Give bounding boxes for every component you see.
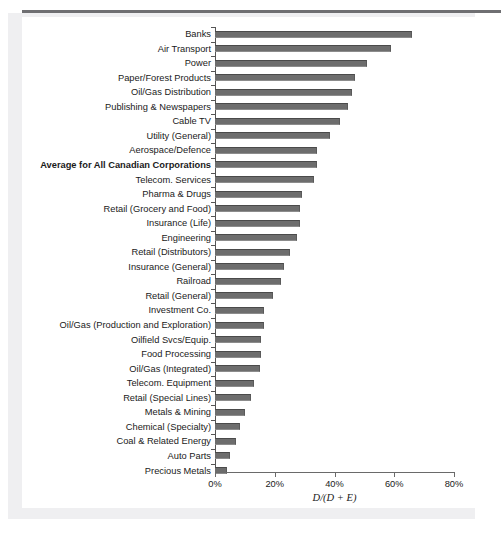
- x-axis-tick: [394, 472, 395, 477]
- y-axis-tick: [211, 245, 215, 246]
- y-axis-tick: [211, 303, 215, 304]
- y-axis-tick: [211, 27, 215, 28]
- bar: [215, 394, 251, 401]
- bar-category-label: Banks: [0, 27, 211, 41]
- x-axis-tick-label: 20%: [255, 479, 295, 489]
- bar-chart-plot: BanksAir TransportPowerPaper/Forest Prod…: [0, 0, 501, 537]
- bar-row: Power: [0, 56, 501, 70]
- y-axis-tick: [211, 85, 215, 86]
- bar: [215, 234, 297, 241]
- bar: [215, 74, 355, 81]
- y-axis-tick: [211, 420, 215, 421]
- bar-category-label: Oil/Gas Distribution: [0, 85, 211, 99]
- bar-row: Cable TV: [0, 114, 501, 128]
- bar: [215, 132, 330, 139]
- bar-row: Precious Metals: [0, 464, 501, 478]
- y-axis-tick: [211, 173, 215, 174]
- bar-row: Oilfield Svcs/Equip.: [0, 333, 501, 347]
- bar: [215, 351, 261, 358]
- bar: [215, 307, 264, 314]
- y-axis-tick: [211, 202, 215, 203]
- bar: [215, 205, 300, 212]
- bar-row: Food Processing: [0, 347, 501, 361]
- bar-category-label: Power: [0, 56, 211, 70]
- bar: [215, 220, 300, 227]
- x-axis-tick: [335, 472, 336, 477]
- bar-row: Paper/Forest Products: [0, 71, 501, 85]
- y-axis-tick: [211, 187, 215, 188]
- bar-row: Chemical (Specialty): [0, 420, 501, 434]
- bar-row: Average for All Canadian Corporations: [0, 158, 501, 172]
- bar-category-label: Aerospace/Defence: [0, 143, 211, 157]
- x-axis-tick-label: 0%: [195, 479, 235, 489]
- bar-row: Retail (Grocery and Food): [0, 202, 501, 216]
- bar-category-label: Oilfield Svcs/Equip.: [0, 333, 211, 347]
- bar-category-label: Oil/Gas (Production and Exploration): [0, 318, 211, 332]
- y-axis-tick: [211, 333, 215, 334]
- bar-row: Auto Parts: [0, 449, 501, 463]
- y-axis-tick: [211, 347, 215, 348]
- bar-category-label: Auto Parts: [0, 449, 211, 463]
- bar: [215, 45, 391, 52]
- y-axis-tick: [211, 362, 215, 363]
- bar-row: Railroad: [0, 274, 501, 288]
- y-axis-tick: [211, 100, 215, 101]
- bar-row: Air Transport: [0, 42, 501, 56]
- bar-row: Retail (Special Lines): [0, 391, 501, 405]
- bar-category-label: Utility (General): [0, 129, 211, 143]
- y-axis-tick: [211, 449, 215, 450]
- bar: [215, 161, 317, 168]
- bar: [215, 452, 230, 459]
- bar-category-label: Paper/Forest Products: [0, 71, 211, 85]
- bar-category-label: Pharma & Drugs: [0, 187, 211, 201]
- bar: [215, 278, 281, 285]
- bar-category-label: Metals & Mining: [0, 405, 211, 419]
- bar: [215, 423, 240, 430]
- bar-category-label: Chemical (Specialty): [0, 420, 211, 434]
- bar: [215, 31, 412, 38]
- y-axis-tick: [211, 129, 215, 130]
- bar-category-label: Retail (General): [0, 289, 211, 303]
- x-axis-title: D/(D + E): [215, 492, 454, 503]
- bar: [215, 380, 254, 387]
- y-axis-tick: [211, 289, 215, 290]
- bar: [215, 322, 264, 329]
- bar: [215, 438, 236, 445]
- x-axis-tick-label: 60%: [374, 479, 414, 489]
- bar-row: Oil/Gas (Production and Exploration): [0, 318, 501, 332]
- bar-category-label: Average for All Canadian Corporations: [0, 158, 211, 172]
- bar: [215, 176, 314, 183]
- bar: [215, 292, 273, 299]
- bar-category-label: Engineering: [0, 231, 211, 245]
- x-axis-tick: [215, 472, 216, 477]
- bar: [215, 409, 245, 416]
- bar-category-label: Air Transport: [0, 42, 211, 56]
- bar-category-label: Telecom. Services: [0, 173, 211, 187]
- bar-row: Insurance (Life): [0, 216, 501, 230]
- x-axis-tick-label: 40%: [315, 479, 355, 489]
- bar-row: Publishing & Newspapers: [0, 100, 501, 114]
- bar: [215, 365, 260, 372]
- bar-category-label: Investment Co.: [0, 303, 211, 317]
- y-axis-tick: [211, 42, 215, 43]
- bar-row: Utility (General): [0, 129, 501, 143]
- y-axis-tick: [211, 391, 215, 392]
- bar: [215, 103, 348, 110]
- bar-row: Telecom. Services: [0, 173, 501, 187]
- y-axis-tick: [211, 143, 215, 144]
- bar-category-label: Coal & Related Energy: [0, 434, 211, 448]
- figure-container: BanksAir TransportPowerPaper/Forest Prod…: [0, 0, 501, 537]
- bar-category-label: Publishing & Newspapers: [0, 100, 211, 114]
- y-axis-tick: [211, 71, 215, 72]
- bar: [215, 263, 284, 270]
- y-axis-tick: [211, 274, 215, 275]
- bar: [215, 336, 261, 343]
- bar-category-label: Precious Metals: [0, 464, 211, 478]
- bar-row: Oil/Gas (Integrated): [0, 362, 501, 376]
- bar-category-label: Retail (Special Lines): [0, 391, 211, 405]
- y-axis-tick: [211, 216, 215, 217]
- bar-category-label: Food Processing: [0, 347, 211, 361]
- bar-row: Engineering: [0, 231, 501, 245]
- bar: [215, 249, 290, 256]
- y-axis-tick: [211, 260, 215, 261]
